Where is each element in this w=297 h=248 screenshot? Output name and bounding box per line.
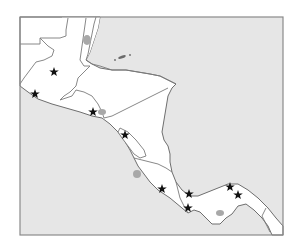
island-utila: [114, 59, 116, 61]
lake-arenal: [133, 170, 141, 178]
central-america-map: [0, 0, 297, 248]
lake-fonseca: [98, 109, 106, 115]
island-guanaja: [129, 54, 131, 56]
lake-gatun: [216, 210, 224, 216]
lake-peten: [83, 35, 91, 45]
